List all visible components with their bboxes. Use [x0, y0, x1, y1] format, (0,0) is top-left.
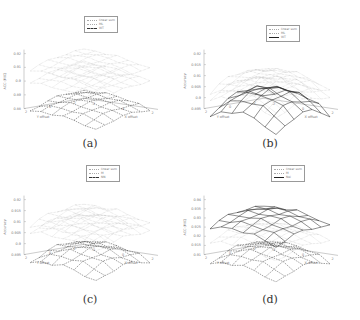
legend-item: NN — [101, 175, 106, 179]
panel-c: 0.920.9150.910.9050.90.895Accuracy20-2Y … — [0, 160, 180, 320]
caption-c: (c) — [0, 293, 180, 306]
svg-text:0.91: 0.91 — [13, 220, 21, 224]
surface-plot-b: 0.920.9150.910.9050.90.895Accuracy20-2Y … — [180, 0, 360, 140]
svg-text:0.92: 0.92 — [193, 52, 201, 56]
legend-item: WT — [99, 26, 104, 30]
svg-text:0.9: 0.9 — [16, 79, 21, 83]
legend-item: WT — [281, 35, 286, 39]
svg-text:X offset: X offset — [125, 115, 139, 119]
svg-text:0.91: 0.91 — [193, 74, 201, 78]
svg-text:0.93: 0.93 — [193, 216, 201, 220]
legend-b: linear sum ML WT — [266, 25, 300, 42]
svg-text:0.935: 0.935 — [191, 207, 201, 211]
panel-a: 0.920.910.90.890.88ACC (MIC)20-2Y offset… — [0, 0, 180, 160]
svg-text:-2: -2 — [92, 102, 95, 106]
panel-b: 0.920.9150.910.9050.90.895Accuracy20-2Y … — [180, 0, 360, 160]
caption-a: (a) — [0, 137, 180, 150]
svg-text:ACC (MIC): ACC (MIC) — [3, 72, 7, 90]
legend-item: Nei — [286, 175, 291, 179]
svg-text:0.91: 0.91 — [193, 253, 201, 257]
panel-d: 0.940.9350.930.9250.920.9150.91ACC (MIC)… — [180, 160, 360, 320]
svg-text:0.895: 0.895 — [11, 253, 21, 257]
svg-text:2: 2 — [205, 256, 207, 260]
svg-text:2: 2 — [205, 110, 207, 114]
axes: 0.920.910.90.890.88ACC (MIC)20-2Y offset… — [3, 50, 158, 120]
surface-series-0 — [30, 49, 150, 90]
svg-text:0: 0 — [302, 107, 304, 111]
svg-text:0.915: 0.915 — [191, 63, 201, 67]
svg-text:-2: -2 — [272, 102, 275, 106]
legend-c: linear sum M NN — [86, 165, 120, 182]
svg-text:0.9: 0.9 — [196, 96, 201, 100]
legend-d: linear sum M Nei — [271, 165, 305, 182]
svg-text:0.905: 0.905 — [191, 85, 201, 89]
svg-text:Y offset: Y offset — [217, 115, 230, 119]
svg-text:X offset: X offset — [305, 115, 319, 119]
surface-plot-d: 0.940.9350.930.9250.920.9150.91ACC (MIC)… — [180, 160, 360, 300]
svg-text:0.94: 0.94 — [193, 198, 201, 202]
svg-text:0.9: 0.9 — [16, 242, 21, 246]
surface-series-2 — [210, 86, 330, 135]
svg-text:0.88: 0.88 — [13, 107, 21, 111]
svg-text:0: 0 — [302, 253, 304, 257]
svg-text:0: 0 — [122, 107, 124, 111]
svg-text:Y offset: Y offset — [217, 261, 230, 265]
caption-d: (d) — [180, 293, 360, 306]
svg-text:0: 0 — [49, 251, 51, 255]
svg-text:0.905: 0.905 — [11, 231, 21, 235]
caption-b: (b) — [180, 137, 360, 150]
surface-series-0 — [30, 204, 150, 245]
svg-text:0.895: 0.895 — [191, 107, 201, 111]
svg-text:Y offset: Y offset — [37, 115, 50, 119]
svg-text:Accuracy: Accuracy — [183, 73, 187, 88]
svg-text:0.91: 0.91 — [13, 65, 21, 69]
svg-text:0.92: 0.92 — [193, 234, 201, 238]
svg-text:2: 2 — [152, 257, 154, 261]
svg-text:0: 0 — [229, 105, 231, 109]
surface-series-0 — [210, 206, 330, 247]
legend-a: linear sum ML WT — [84, 16, 118, 33]
svg-text:0.92: 0.92 — [13, 52, 21, 56]
svg-text:0: 0 — [122, 253, 124, 257]
svg-text:2: 2 — [332, 111, 334, 115]
surface-series-2 — [30, 90, 150, 129]
svg-text:0.915: 0.915 — [191, 243, 201, 247]
axes: 0.920.9150.910.9050.90.895Accuracy20-2Y … — [3, 196, 158, 266]
svg-text:0.925: 0.925 — [191, 225, 201, 229]
svg-text:Accuracy: Accuracy — [3, 219, 7, 234]
svg-text:0.89: 0.89 — [13, 93, 21, 97]
svg-text:2: 2 — [152, 111, 154, 115]
svg-text:2: 2 — [332, 257, 334, 261]
svg-text:0.915: 0.915 — [11, 209, 21, 213]
svg-text:2: 2 — [25, 110, 27, 114]
svg-text:ACC (MIC): ACC (MIC) — [183, 218, 187, 236]
svg-text:0.92: 0.92 — [13, 198, 21, 202]
svg-text:2: 2 — [25, 256, 27, 260]
